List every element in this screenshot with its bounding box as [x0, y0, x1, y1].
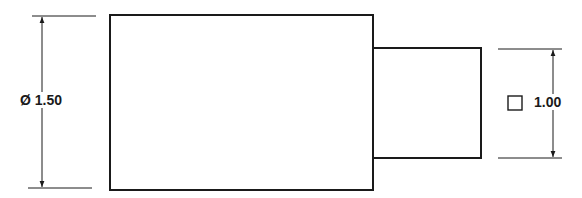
drawing-canvas	[0, 0, 582, 198]
square-dimension-label: 1.00	[533, 94, 562, 110]
square-icon	[508, 96, 522, 110]
diameter-label: Ø 1.50	[19, 92, 63, 108]
large-section-outline	[110, 15, 373, 190]
small-section-outline	[373, 48, 481, 158]
